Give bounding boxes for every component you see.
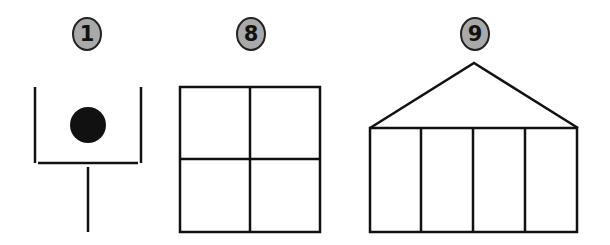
figure-1-open-box bbox=[35, 87, 141, 232]
figure-1-dot bbox=[70, 107, 106, 143]
figure-9-house bbox=[370, 63, 578, 232]
figure-8-quartered-square bbox=[180, 87, 320, 232]
figure-9-roof bbox=[370, 63, 578, 128]
figures-canvas bbox=[0, 0, 610, 245]
